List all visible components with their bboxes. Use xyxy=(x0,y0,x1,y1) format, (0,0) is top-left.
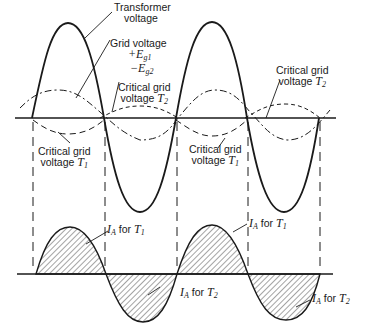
anode-current-t2-lobe-1 xyxy=(106,274,177,322)
label-transformer-voltage: Transformer voltage xyxy=(114,2,171,24)
anode-current-t1-lobe-2 xyxy=(177,225,248,274)
anode-current-t2-lobe-2 xyxy=(248,274,320,320)
critical-grid-voltage-t1-curve xyxy=(33,120,247,136)
label-critical-grid-voltage-t2-left: Critical grid voltage T2 xyxy=(118,82,171,107)
label-ia-for-t2-right: IA for T2 xyxy=(312,293,350,307)
label-grid-voltage: Grid voltage +Eg1 −Eg2 xyxy=(110,38,167,77)
label-critical-grid-voltage-t1-left: Critical grid voltage T1 xyxy=(38,146,91,171)
label-ia-for-t1-left: IA for T1 xyxy=(107,224,145,238)
anode-current-t1-lobe-1 xyxy=(36,227,106,274)
label-ia-for-t2-left: IA for T2 xyxy=(180,287,218,301)
label-critical-grid-voltage-t1-right: Critical grid voltage T1 xyxy=(189,144,242,169)
label-ia-for-t1-right: IA for T1 xyxy=(249,218,287,232)
label-critical-grid-voltage-t2-right: Critical grid voltage T2 xyxy=(276,65,329,90)
grid-voltage-curve xyxy=(20,90,330,140)
